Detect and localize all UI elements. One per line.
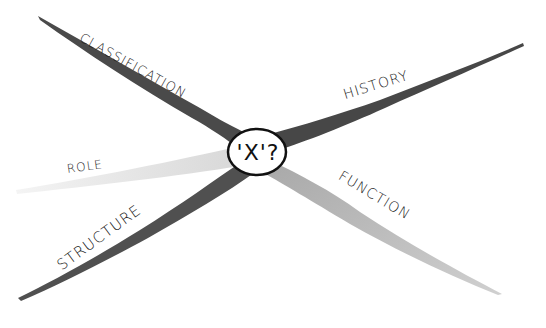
center-label: 'X'? bbox=[230, 132, 286, 172]
concept-diagram: 'X'? CLASSIFICATION HISTORY ROLE STRUCTU… bbox=[0, 0, 546, 328]
branch-function bbox=[262, 160, 502, 295]
branch-history bbox=[270, 43, 524, 150]
branch-classification bbox=[38, 16, 248, 150]
branch-structure bbox=[18, 160, 258, 301]
